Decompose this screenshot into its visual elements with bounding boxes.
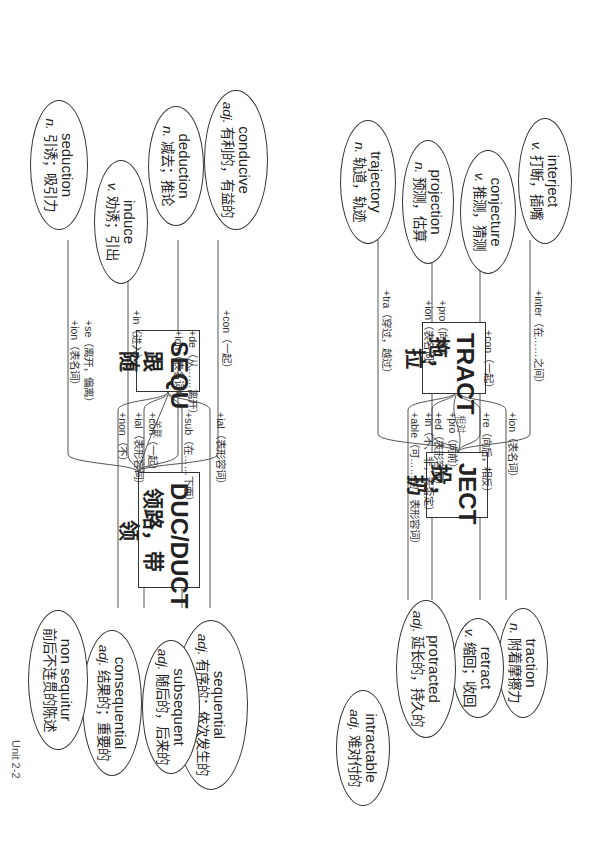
word-bubble-trajectory: trajectory n. 轨道，轨迹 [340,120,396,244]
word-bubble-conjecture: conjecture v. 推测，猜测 [460,150,516,274]
affix-label: +re（向后，相反） [480,412,494,497]
word-bubble-consequential: consequential adj. 结果的；重要的 [82,630,142,776]
affix-label: +tra（穿过，越过） [380,290,394,378]
affix-label: +con（一起）+ial（表形容词） [132,412,160,489]
root-meaning: 领路，带领 [117,483,165,577]
word-bubble-traction: traction n. 附着摩擦力 [498,608,548,718]
word-bubble-induce: induce v. 劝诱；引出 [94,160,148,284]
affix-label: +pro（向前）+ion（表名词） [422,300,450,370]
word-bubble-subsequent: subsequent adj. 随后的，后来的 [142,640,200,774]
word-bubble-seduction: seduction n. 引诱；吸引力 [30,100,88,230]
word-bubble-projection: projection n. 预测，估算 [402,140,454,264]
affix-label: +ion（表名词） [506,412,520,482]
word-bubble-deduction: deduction n. 减去；推论 [148,106,204,226]
affix-label: +de（从……离开）+ion（表名词） [172,330,200,419]
word-bubble-retract: retract v. 缩回；收回 [452,618,504,718]
mind-map-page: TRACT 拖，拉 SEQU 跟随 JECT 投，扔 DUC/DUCT 领路，带… [0,0,608,851]
word-bubble-protracted: protracted adj. 延长的，持久的 [396,600,456,738]
affix-label: +inter（在……之间） [532,290,546,388]
affix-label: +sub（在……下面） [182,412,196,506]
word-bubble-intractable: intractable adj. 难对付的 [336,690,390,806]
affix-label: +in（不、非，表否定）+able（可……的，表形容词） [408,412,436,549]
root-title: TRACT [451,333,479,383]
word-bubble-non-sequitur: non sequitur 前后不连贯的陈述 [28,610,88,750]
word-bubble-interject: interject v. 打断，插嘴 [518,118,572,244]
affix-label: +con（一起） [482,330,496,393]
affix-label: +con（一起） [220,310,234,373]
word-bubble-conducive: conducive adj. 有利的，有益的 [204,90,268,230]
page-label: Unit 2-2 [10,740,22,779]
affix-label: +in（进入） [130,310,144,364]
affix-label: +non（不） [116,412,130,466]
affix-label: +se（离开，偏离）+ion（表名词） [68,320,96,407]
affix-label: +ial（表形容词） [214,412,228,489]
